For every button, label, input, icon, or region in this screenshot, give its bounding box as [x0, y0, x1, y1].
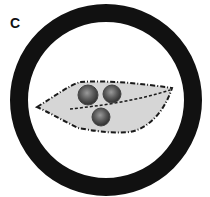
figure-canvas: [0, 0, 210, 197]
spore-3: [92, 108, 110, 126]
spore-1: [78, 85, 98, 105]
spore-2: [103, 85, 121, 103]
